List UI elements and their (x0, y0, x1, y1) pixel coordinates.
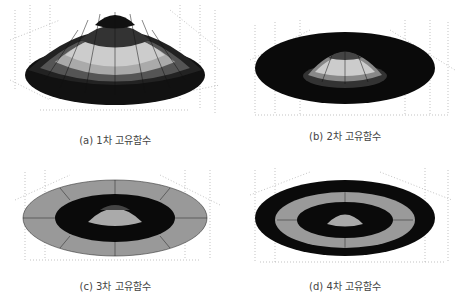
caption-b: (b) 2차 고유함수 (230, 128, 460, 143)
surface-plot-b (230, 0, 461, 130)
caption-c: (c) 3차 고유함수 (0, 278, 230, 293)
caption-d: (d) 4차 고유함수 (230, 278, 460, 293)
surface-plot-c (0, 150, 230, 280)
surface-plot-d (230, 150, 461, 280)
panel-c: (c) 3차 고유함수 (0, 150, 230, 300)
surface-plot-a (0, 0, 230, 130)
panel-a: (a) 1차 고유함수 (0, 0, 230, 150)
panel-b: (b) 2차 고유함수 (230, 0, 460, 150)
panel-d: (d) 4차 고유함수 (230, 150, 460, 300)
caption-a: (a) 1차 고유함수 (0, 132, 230, 147)
